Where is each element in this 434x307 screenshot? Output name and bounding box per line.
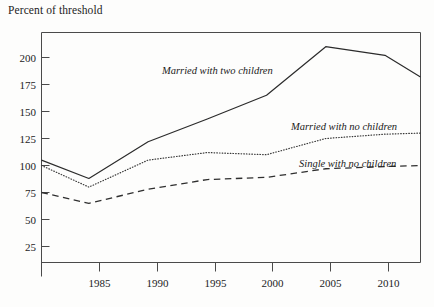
y-tick-label-50: 50 (25, 214, 37, 226)
series-label-married-no-children: Married with no children (290, 121, 397, 132)
x-tick-label-1985: 1985 (89, 277, 112, 289)
x-tick-label-1995: 1995 (205, 277, 228, 289)
y-tick-label-200: 200 (20, 52, 37, 64)
x-tick-label-2010: 2010 (378, 277, 401, 289)
y-tick-label-175: 175 (20, 79, 37, 91)
x-tick-label-2000: 2000 (262, 277, 285, 289)
x-tick-label-2005: 2005 (320, 277, 343, 289)
y-tick-label-100: 100 (20, 160, 37, 172)
y-tick-label-75: 75 (25, 187, 37, 199)
y-tick-label-25: 25 (25, 241, 37, 253)
y-axis-ticks (42, 58, 50, 247)
line-chart-plot: 200 175 150 125 100 75 50 25 1985 1990 1… (0, 0, 434, 307)
series-line-single-no-children (42, 166, 421, 204)
y-tick-label-150: 150 (20, 106, 37, 118)
series-label-married-two-children: Married with two children (161, 65, 273, 76)
x-tick-label-1990: 1990 (147, 277, 170, 289)
x-axis-ticks (100, 263, 389, 272)
chart-screenshot: Percent of threshold 200 175 150 125 100… (0, 0, 434, 307)
series-label-single-no-children: Single with no children (299, 158, 396, 169)
y-tick-label-125: 125 (20, 133, 37, 145)
